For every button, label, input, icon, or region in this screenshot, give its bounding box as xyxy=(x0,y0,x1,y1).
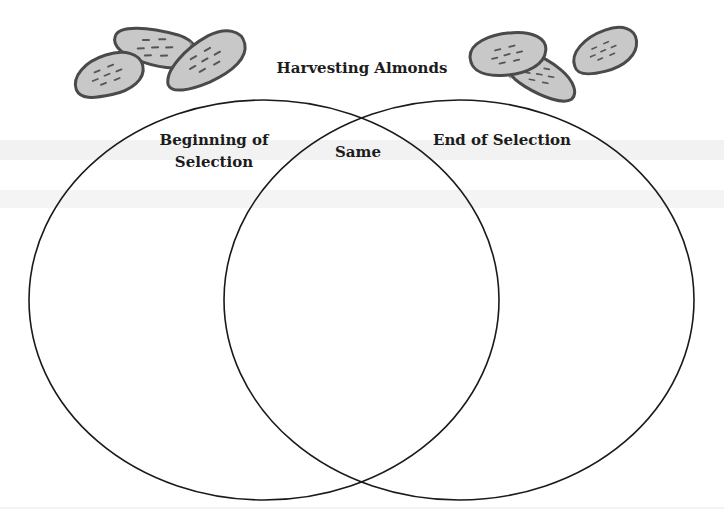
venn-circle-right xyxy=(224,100,694,500)
venn-label-overlap: Same xyxy=(318,141,398,163)
diagram-title: Harvesting Almonds xyxy=(272,57,452,79)
venn-label-left: Beginning of Selection xyxy=(150,129,278,173)
venn-label-left-line-2: Selection xyxy=(150,151,278,173)
venn-diagram-worksheet: Harvesting Almonds Beginning of Selectio… xyxy=(0,0,724,530)
venn-label-left-line-1: Beginning of xyxy=(150,129,278,151)
venn-label-right: End of Selection xyxy=(428,129,576,151)
venn-circles xyxy=(0,0,724,530)
